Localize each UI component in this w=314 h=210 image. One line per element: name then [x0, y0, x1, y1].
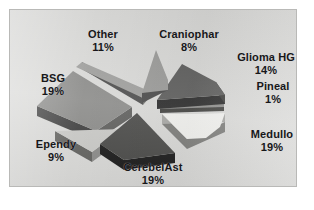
pie-label-bsg: BSG 19% [24, 72, 82, 97]
pie-label-ependy-percent: 9% [22, 151, 90, 164]
pie-label-bsg-percent: 19% [24, 85, 82, 98]
pie-label-medullo-percent: 19% [234, 141, 297, 154]
pie-chart-figure: Other 11% Craniophar 8% Glioma HG 14% Pi… [0, 0, 314, 210]
pie-label-glioma-hg: Glioma HG 14% [222, 51, 297, 76]
pie-label-other-name: Other [70, 28, 136, 41]
pie-label-craniophar: Craniophar 8% [146, 28, 232, 53]
pie-label-medullo-name: Medullo [234, 128, 297, 141]
pie-label-pineal: Pineal 1% [236, 80, 297, 105]
pie-label-medullo: Medullo 19% [234, 128, 297, 153]
pie-label-other-percent: 11% [70, 41, 136, 54]
pie-label-ependy: Ependy 9% [22, 138, 90, 163]
pie-label-bsg-name: BSG [24, 72, 82, 85]
pie-label-craniophar-percent: 8% [146, 41, 232, 54]
pie-label-glioma-hg-percent: 14% [222, 64, 297, 77]
pie-label-cerebelast: CerebelAst 19% [102, 161, 204, 186]
pie-label-ependy-name: Ependy [22, 138, 90, 151]
pie-label-pineal-percent: 1% [236, 93, 297, 106]
pie-label-glioma-hg-name: Glioma HG [222, 51, 297, 64]
pie-slice-craniophar-top [142, 50, 168, 93]
pie-label-craniophar-name: Craniophar [146, 28, 232, 41]
pie-label-other: Other 11% [70, 28, 136, 53]
pie-label-cerebelast-percent: 19% [102, 174, 204, 187]
pie-slice-medullo[interactable] [162, 113, 225, 149]
pie-label-cerebelast-name: CerebelAst [102, 161, 204, 174]
pie-label-pineal-name: Pineal [236, 80, 297, 93]
chart-plot-panel: Other 11% Craniophar 8% Glioma HG 14% Pi… [9, 9, 297, 187]
